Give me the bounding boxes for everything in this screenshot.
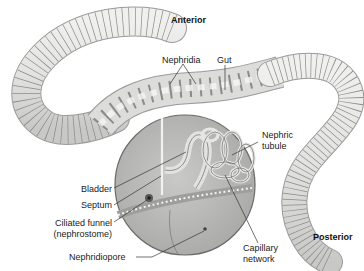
earthworm-diagram: Anterior Nephridia Gut Nephric tubule Bl… <box>0 0 364 271</box>
label-anterior: Anterior <box>171 15 206 25</box>
label-nephric-tubule-line2: tubule <box>262 141 287 151</box>
label-gut: Gut <box>217 55 232 65</box>
cutaway-magnified-view <box>115 115 255 255</box>
label-capillary-network-line2: network <box>243 254 275 264</box>
label-capillary-network-line1: Capillary <box>243 243 278 253</box>
label-nephridiopore: Nephridiopore <box>69 252 126 262</box>
nephridiopore-dot <box>203 227 207 231</box>
label-ciliated-funnel-line1: Ciliated funnel <box>55 218 112 228</box>
label-ciliated-funnel-line2: (nephrostome) <box>53 229 112 239</box>
label-nephric-tubule-line1: Nephric <box>262 130 293 140</box>
label-bladder: Bladder <box>81 184 112 194</box>
label-septum: Septum <box>81 200 112 210</box>
label-nephridia: Nephridia <box>162 55 201 65</box>
label-posterior: Posterior <box>313 232 353 242</box>
